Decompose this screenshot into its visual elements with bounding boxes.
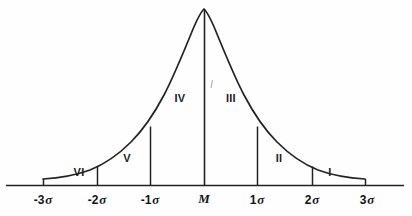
sigma-glyph: σ: [98, 192, 106, 207]
sigma-glyph: σ: [151, 192, 159, 207]
bell-curve-drawing: [0, 0, 412, 216]
normal-distribution-figure: I II III IV V VI -3σ -2σ -1σ M 1σ 2σ 3σ: [0, 0, 412, 216]
axis-tick-mean: M: [198, 191, 210, 207]
axis-tick-plus-3-sigma: 3σ: [360, 192, 375, 208]
axis-tick-minus-3-sigma-value: -3: [34, 193, 45, 207]
axis-tick-plus-2-sigma: 2σ: [305, 192, 320, 208]
region-label-iv: IV: [175, 92, 186, 104]
region-label-v: V: [123, 152, 131, 164]
axis-tick-minus-2-sigma: -2σ: [88, 192, 107, 208]
axis-tick-minus-1-sigma-value: -1: [141, 193, 152, 207]
axis-tick-plus-3-sigma-value: 3: [360, 193, 367, 207]
region-label-vi: VI: [74, 166, 85, 178]
axis-tick-plus-2-sigma-value: 2: [305, 193, 312, 207]
axis-tick-plus-1-sigma: 1σ: [250, 192, 265, 208]
sigma-glyph: σ: [366, 192, 374, 207]
axis-tick-minus-2-sigma-value: -2: [88, 193, 99, 207]
sigma-glyph: σ: [311, 192, 319, 207]
axis-tick-minus-1-sigma: -1σ: [141, 192, 160, 208]
region-label-i: I: [328, 166, 331, 178]
axis-tick-minus-3-sigma: -3σ: [34, 192, 53, 208]
region-label-iii: III: [226, 92, 236, 104]
axis-tick-plus-1-sigma-value: 1: [250, 193, 257, 207]
ink-artifact-mark: [211, 80, 213, 88]
region-label-ii: II: [276, 152, 283, 164]
sigma-glyph: σ: [44, 192, 52, 207]
sigma-glyph: σ: [256, 192, 264, 207]
axis-tick-mean-value: M: [198, 191, 210, 206]
